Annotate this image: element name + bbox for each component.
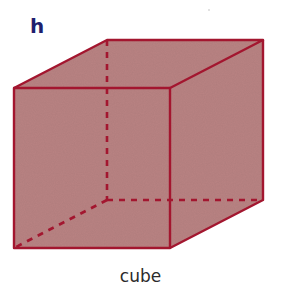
cube-figure: h cube (0, 0, 281, 294)
cube-fill (14, 40, 263, 248)
figure-caption: cube (0, 268, 281, 285)
figure-label: h (30, 16, 44, 36)
cube-drawing (0, 0, 281, 294)
